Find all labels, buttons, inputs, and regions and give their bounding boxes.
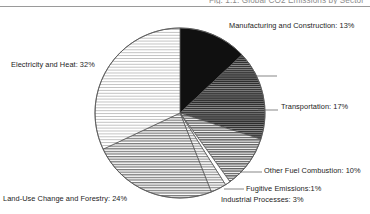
- slice-label-manufacturing: Manufacturing and Construction: 13%: [229, 22, 354, 29]
- slice-label-other-fuel-combustion: Other Fuel Combustion: 10%: [264, 167, 361, 174]
- slice-label-electricity-and-heat: Electricity and Heat: 32%: [11, 61, 95, 68]
- figure-container: Fig. 1.1: Global CO2 Emissions by Sector: [0, 0, 370, 214]
- slice-label-transportation: Transportation: 17%: [281, 103, 348, 110]
- slice-label-industrial-processes: Industrial Processes: 3%: [221, 196, 304, 203]
- slice-label-land-use-change-and-forestry: Land-Use Change and Forestry: 24%: [3, 195, 127, 202]
- slice-label-fugitive-emissions: Fugitive Emissions:1%: [246, 185, 321, 192]
- pie-slices: [95, 28, 265, 198]
